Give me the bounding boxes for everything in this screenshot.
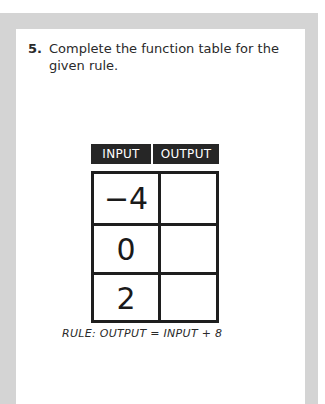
output-cell-2[interactable] (161, 225, 216, 273)
input-cell-1: −4 (94, 174, 158, 222)
question-text: Complete the function table for the give… (49, 40, 299, 74)
question-number: 5. (28, 40, 42, 57)
function-rule: RULE: OUTPUT = INPUT + 8 (62, 327, 222, 340)
input-cell-2: 0 (94, 225, 158, 273)
input-cell-3: 2 (94, 274, 158, 322)
output-column-header: OUTPUT (153, 144, 219, 164)
function-table: −4 0 2 (91, 171, 219, 323)
output-cell-3[interactable] (161, 274, 216, 322)
output-cell-1[interactable] (161, 174, 216, 222)
input-column-header: INPUT (91, 144, 151, 164)
